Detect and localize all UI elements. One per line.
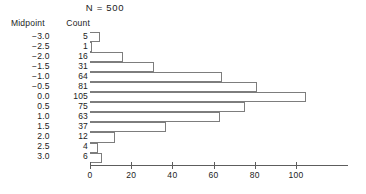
x-axis-tick-label: 0 xyxy=(87,170,92,180)
table-row: −1.064 xyxy=(8,71,92,81)
bar xyxy=(90,153,102,163)
table-row: −0.581 xyxy=(8,81,92,91)
cell-midpoint: −0.5 xyxy=(8,81,54,91)
table-row: 1.063 xyxy=(8,111,92,121)
table-row: 2.54 xyxy=(8,141,92,151)
cell-count: 31 xyxy=(54,61,92,71)
x-axis-tick xyxy=(255,162,256,169)
x-axis-line xyxy=(90,165,348,166)
x-axis-tick-label: 20 xyxy=(126,170,136,180)
plot-area: 020406080100 xyxy=(90,0,366,194)
table-row: 0.575 xyxy=(8,101,92,111)
x-axis-tick xyxy=(90,162,91,169)
column-header-midpoint: Midpoint xyxy=(8,18,54,28)
cell-count: 6 xyxy=(54,151,92,161)
cell-count: 1 xyxy=(54,41,92,51)
cell-midpoint: 2.5 xyxy=(8,141,54,151)
bar xyxy=(90,143,98,153)
cell-midpoint: 0.0 xyxy=(8,91,54,101)
table-header-row: Midpoint Count xyxy=(8,18,92,28)
table-row: 1.537 xyxy=(8,121,92,131)
cell-midpoint: −2.0 xyxy=(8,51,54,61)
cell-midpoint: −2.5 xyxy=(8,41,54,51)
x-axis-tick xyxy=(214,162,215,169)
cell-midpoint: −1.5 xyxy=(8,61,54,71)
x-axis-tick xyxy=(131,162,132,169)
cell-midpoint: 1.0 xyxy=(8,111,54,121)
cell-count: 64 xyxy=(54,71,92,81)
histogram-figure: N = 500 Midpoint Count −3.05−2.51−2.016−… xyxy=(0,0,366,194)
column-header-count: Count xyxy=(54,18,92,28)
cell-midpoint: 2.0 xyxy=(8,131,54,141)
x-axis-tick xyxy=(296,162,297,169)
table-row: −1.531 xyxy=(8,61,92,71)
cell-count: 16 xyxy=(54,51,92,61)
bar xyxy=(90,102,245,112)
bar xyxy=(90,72,222,82)
table-row: −2.51 xyxy=(8,41,92,51)
frequency-table: Midpoint Count −3.05−2.51−2.016−1.531−1.… xyxy=(8,18,92,161)
bar xyxy=(90,112,220,122)
cell-count: 75 xyxy=(54,101,92,111)
table-row: 3.06 xyxy=(8,151,92,161)
table-row: 2.012 xyxy=(8,131,92,141)
bar xyxy=(90,62,154,72)
cell-midpoint: 0.5 xyxy=(8,101,54,111)
cell-count: 4 xyxy=(54,141,92,151)
bar xyxy=(90,32,100,42)
bar-series xyxy=(90,32,306,163)
x-axis-tick-label: 80 xyxy=(250,170,260,180)
bar xyxy=(90,132,115,142)
table-row: −3.05 xyxy=(8,31,92,41)
bar xyxy=(90,52,123,62)
cell-count: 81 xyxy=(54,81,92,91)
cell-midpoint: 1.5 xyxy=(8,121,54,131)
table-body: −3.05−2.51−2.016−1.531−1.064−0.5810.0105… xyxy=(8,31,92,162)
bar xyxy=(90,82,257,92)
bar xyxy=(90,42,92,52)
cell-midpoint: 3.0 xyxy=(8,151,54,161)
cell-count: 5 xyxy=(54,31,92,41)
cell-count: 12 xyxy=(54,131,92,141)
cell-midpoint: −1.0 xyxy=(8,71,54,81)
bar xyxy=(90,122,166,132)
x-axis-tick-label: 100 xyxy=(288,170,303,180)
x-axis-tick-label: 40 xyxy=(167,170,177,180)
cell-count: 63 xyxy=(54,111,92,121)
cell-midpoint: −3.0 xyxy=(8,31,54,41)
bar xyxy=(90,92,306,102)
x-axis-tick xyxy=(172,162,173,169)
x-axis-tick-label: 60 xyxy=(209,170,219,180)
table-row: −2.016 xyxy=(8,51,92,61)
cell-count: 105 xyxy=(54,91,92,101)
table-row: 0.0105 xyxy=(8,91,92,101)
cell-count: 37 xyxy=(54,121,92,131)
